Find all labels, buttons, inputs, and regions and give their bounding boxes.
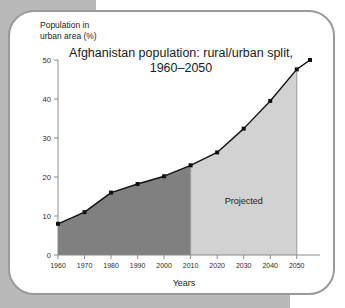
x-axis-tick-label: 2020 — [209, 262, 225, 269]
data-point-marker[interactable] — [136, 182, 140, 186]
data-point-marker[interactable] — [295, 67, 299, 71]
x-axis-tick-label: 2000 — [156, 262, 172, 269]
y-axis-tick-label: 0 — [47, 251, 51, 260]
data-point-marker[interactable] — [268, 99, 272, 103]
historical-area — [58, 165, 191, 255]
projected-annotation-label: Projected — [225, 196, 263, 206]
y-axis-tick-label: 30 — [43, 134, 51, 143]
page-background-top-right — [290, 0, 345, 10]
x-axis-tick-label: 1960 — [50, 262, 66, 269]
page-root: Population inurban area (%) Afghanistan … — [0, 0, 345, 308]
data-point-marker[interactable] — [162, 174, 166, 178]
x-axis-title: Years — [173, 278, 196, 288]
chart-card: Population inurban area (%) Afghanistan … — [8, 10, 335, 295]
chart-figure: Population inurban area (%) Afghanistan … — [10, 12, 337, 297]
x-axis-tick-label: 1970 — [77, 262, 93, 269]
data-point-marker[interactable] — [189, 163, 193, 167]
x-axis-tick-label: 2030 — [236, 262, 252, 269]
data-point-marker[interactable] — [215, 150, 219, 154]
y-axis-tick-label: 10 — [43, 212, 51, 221]
y-axis-tick-label: 20 — [43, 173, 51, 182]
y-axis-tick-label: 50 — [43, 56, 51, 65]
chart-plot-area: 0102030405019601970198019902000201020202… — [10, 12, 337, 297]
data-point-marker[interactable] — [83, 210, 87, 214]
data-point-marker[interactable] — [109, 191, 113, 195]
x-axis-tick-label: 2050 — [289, 262, 305, 269]
x-axis-tick-label: 1980 — [103, 262, 119, 269]
data-point-marker[interactable] — [242, 127, 246, 131]
data-line-endpoint-marker — [308, 58, 312, 62]
projected-area — [191, 69, 297, 255]
x-axis-tick-label: 1990 — [130, 262, 146, 269]
x-axis-tick-label: 2010 — [183, 262, 199, 269]
y-axis-tick-label: 40 — [43, 95, 51, 104]
x-axis-tick-label: 2040 — [262, 262, 278, 269]
data-point-marker[interactable] — [56, 222, 60, 226]
